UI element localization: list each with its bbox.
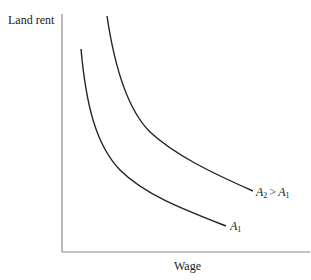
curve-a2-sub2: 1 <box>285 191 289 200</box>
x-axis-label: Wage <box>174 260 201 272</box>
land-rent-wage-diagram: Land rent Wage A2>A1 A1 <box>0 0 311 280</box>
diagram-canvas <box>0 0 311 280</box>
curve-a2 <box>107 16 253 191</box>
y-axis-label: Land rent <box>8 14 54 26</box>
curve-a1 <box>81 49 226 226</box>
curve-a2-label: A2>A1 <box>256 186 289 200</box>
curve-a2-op: > <box>267 185 278 199</box>
curve-a1-sub: 1 <box>237 225 241 234</box>
curve-a1-label: A1 <box>230 220 241 234</box>
